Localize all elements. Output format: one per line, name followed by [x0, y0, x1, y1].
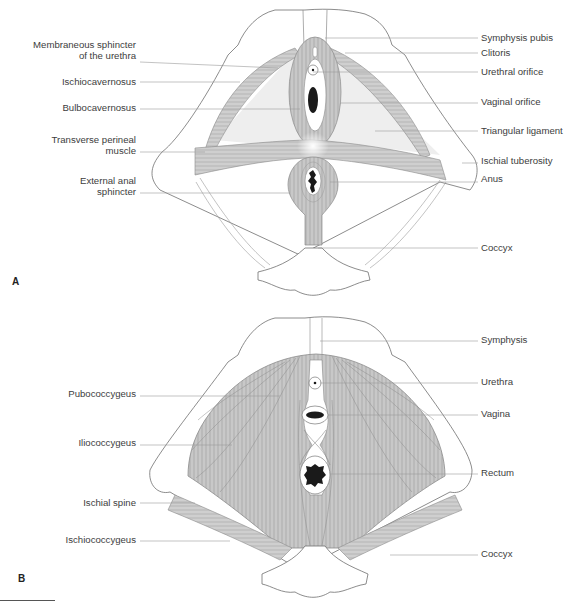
label-ischiococcygeus: Ischiococcygeus: [66, 534, 136, 545]
vaginal-orifice: [308, 87, 318, 113]
label-urethra: Urethra: [481, 376, 513, 387]
label-line: muscle: [52, 145, 136, 156]
label-coccyx-a: Coccyx: [481, 242, 512, 253]
label-triangular-ligament: Triangular ligament: [481, 125, 563, 136]
label-rectum: Rectum: [481, 467, 514, 478]
rectum: [304, 464, 326, 487]
label-symphysis: Symphysis: [481, 334, 527, 345]
label-bulbocavernosus: Bulbocavernosus: [62, 102, 136, 113]
label-ischial-tuberosity: Ischial tuberosity: [481, 155, 552, 166]
label-membraneous-sphincter: Membraneous sphincter of the urethra: [33, 39, 136, 61]
label-line: Transverse perineal: [52, 134, 136, 145]
label-coccyx-b: Coccyx: [481, 548, 512, 559]
label-clitoris: Clitoris: [481, 47, 510, 58]
pelvic-floor-figure: Membraneous sphincter of the urethra Isc…: [0, 0, 582, 607]
panel-letter-a: A: [12, 276, 19, 287]
label-ischial-spine: Ischial spine: [83, 497, 136, 508]
label-line: sphincter: [80, 186, 136, 197]
label-ischiocavernosus: Ischiocavernosus: [62, 76, 136, 87]
vagina: [306, 412, 324, 419]
label-line: External anal: [80, 175, 136, 186]
label-line: Ischiocavernosus: [62, 76, 136, 87]
label-urethral-orifice: Urethral orifice: [481, 66, 543, 77]
label-vaginal-orifice: Vaginal orifice: [481, 96, 541, 107]
label-anus: Anus: [481, 173, 503, 184]
label-line: of the urethra: [33, 50, 136, 61]
label-external-anal-sphincter: External anal sphincter: [80, 175, 136, 197]
label-iliococcygeus: Iliococcygeus: [78, 437, 136, 448]
label-transverse-perineal-muscle: Transverse perineal muscle: [52, 134, 136, 156]
label-line: Membraneous sphincter: [33, 39, 136, 50]
label-line: Bulbocavernosus: [62, 102, 136, 113]
label-pubococcygeus: Pubococcygeus: [68, 388, 136, 399]
clitoris: [313, 47, 317, 57]
label-symphysis-pubis: Symphysis pubis: [481, 32, 553, 43]
label-vagina: Vagina: [481, 408, 510, 419]
anatomy-illustration: [0, 0, 582, 607]
coccyx-a: [258, 248, 370, 295]
panel-letter-b: B: [18, 573, 25, 584]
footnote-rule: [0, 600, 55, 601]
